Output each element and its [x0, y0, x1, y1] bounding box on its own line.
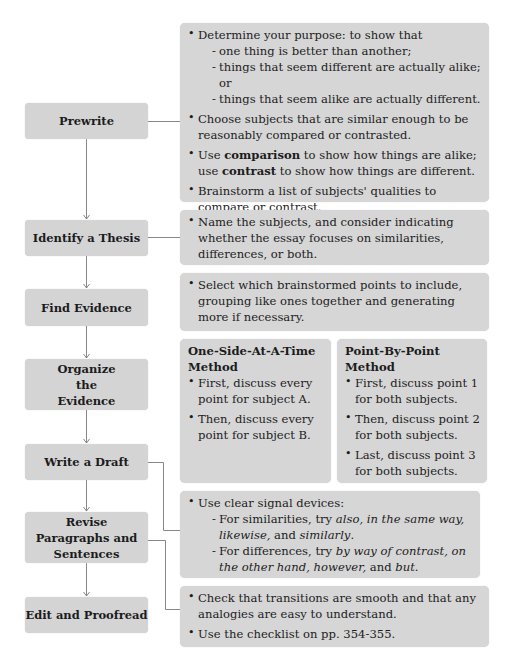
text: For similarities, try — [219, 512, 336, 526]
method-bullet: First, discuss point 1 for both subjects… — [345, 375, 481, 407]
method-title: Point-By-Point Method — [345, 343, 481, 375]
thesis-bullet: Name the subjects, and consider indicati… — [188, 214, 481, 262]
bullet-text: Determine your purpose: to show that — [198, 27, 481, 43]
step-organize-evidence: Organize the Evidence — [25, 359, 148, 410]
step-label: Edit and Proofread — [25, 607, 147, 623]
revise-details: Use clear signal devices: -For similarit… — [180, 491, 480, 578]
text: and — [366, 560, 395, 574]
method-title: One-Side-At-A-Time Method — [188, 343, 325, 375]
method-one-side: One-Side-At-A-Time Method First, discuss… — [180, 339, 331, 483]
sub-text: things that seem alike are actually diff… — [219, 92, 481, 106]
method-bullet: First, discuss every point for subject A… — [188, 375, 325, 407]
text: and — [270, 528, 299, 542]
step-label: Organize the Evidence — [47, 361, 126, 409]
signal-words: but — [395, 560, 415, 574]
term-contrast: contrast — [222, 164, 276, 178]
thesis-details: Name the subjects, and consider indicati… — [180, 210, 489, 265]
step-prewrite: Prewrite — [25, 103, 148, 139]
step-revise: Revise Paragraphs and Sentences — [25, 512, 148, 563]
step-write-draft: Write a Draft — [25, 444, 148, 480]
sub-item: -things that seem alike are actually dif… — [198, 91, 481, 107]
prewrite-details: Determine your purpose: to show that -on… — [180, 23, 489, 202]
text: For differences, try — [219, 544, 336, 558]
edit-details: Check that transitions are smooth and th… — [180, 586, 489, 647]
sub-item: -one thing is better than another; — [198, 43, 481, 59]
evidence-bullet: Select which brainstormed points to incl… — [188, 277, 481, 325]
method-bullet: Last, discuss point 3 for both subjects. — [345, 447, 481, 479]
step-label: Identify a Thesis — [33, 230, 140, 246]
evidence-details: Select which brainstormed points to incl… — [180, 273, 489, 331]
step-edit-proofread: Edit and Proofread — [25, 597, 148, 633]
prewrite-bullet-comparison: Use comparison to show how things are al… — [188, 147, 481, 179]
prewrite-bullet-subjects: Choose subjects that are similar enough … — [188, 111, 481, 143]
text: . — [415, 560, 419, 574]
text: . — [350, 528, 354, 542]
sub-item: -things that seem different are actually… — [198, 59, 481, 91]
method-bullet: Then, discuss every point for subject B. — [188, 411, 325, 443]
edit-bullet-checklist: Use the checklist on pp. 354-355. — [188, 626, 481, 642]
method-bullet: Then, discuss point 2 for both subjects. — [345, 411, 481, 443]
sub-text: things that seem different are actually … — [219, 60, 481, 90]
revise-bullet: Use clear signal devices: -For similarit… — [188, 495, 472, 575]
step-identify-thesis: Identify a Thesis — [25, 220, 148, 256]
prewrite-bullet-purpose: Determine your purpose: to show that -on… — [188, 27, 481, 107]
step-label: Write a Draft — [44, 454, 129, 470]
sub-item-differences: -For differences, try by way of contrast… — [198, 543, 472, 575]
term-comparison: comparison — [224, 148, 300, 162]
step-label: Revise Paragraphs and Sentences — [31, 514, 142, 562]
edit-bullet-transitions: Check that transitions are smooth and th… — [188, 590, 481, 622]
step-label: Find Evidence — [41, 300, 132, 316]
step-find-evidence: Find Evidence — [25, 289, 148, 326]
sub-text: one thing is better than another; — [219, 44, 411, 58]
step-label: Prewrite — [59, 113, 114, 129]
text: to show how things are different. — [276, 164, 475, 178]
sub-item-similarities: -For similarities, try also, in the same… — [198, 511, 472, 543]
signal-words: similarly — [300, 528, 351, 542]
method-point-by-point: Point-By-Point Method First, discuss poi… — [337, 339, 487, 483]
bullet-text: Use clear signal devices: — [198, 495, 472, 511]
text: Use — [198, 148, 224, 162]
